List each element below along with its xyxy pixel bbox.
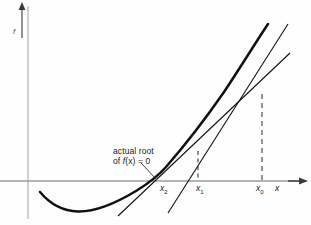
- actual-root-annotation: actual root of f(x) = 0: [113, 146, 154, 166]
- tick-label-x2: x2: [160, 183, 168, 196]
- tangent-line-at-x0: [168, 24, 288, 213]
- tick-label-x1-sub: 1: [200, 189, 203, 195]
- function-curve: [40, 24, 268, 212]
- tick-label-x0: x0: [256, 183, 264, 196]
- figure-canvas: [0, 0, 311, 225]
- annotation-line-1: actual root: [113, 146, 154, 156]
- annotation-line-2: of f(x) = 0: [113, 156, 154, 166]
- tick-label-x1: x1: [196, 183, 204, 196]
- x-axis-label: x: [275, 183, 279, 193]
- tangent-line-at-x1: [118, 53, 290, 216]
- newton-method-figure: f actual root of f(x) = 0 x2 x1 x0 x: [0, 0, 311, 225]
- y-axis-arrowhead: [19, 2, 26, 10]
- y-axis-label: f: [13, 27, 15, 36]
- annotation-of-text: of: [113, 156, 123, 166]
- annotation-equation-tail: (x) = 0: [125, 156, 150, 166]
- tick-label-x2-sub: 2: [164, 189, 167, 195]
- tick-label-x0-sub: 0: [260, 189, 263, 195]
